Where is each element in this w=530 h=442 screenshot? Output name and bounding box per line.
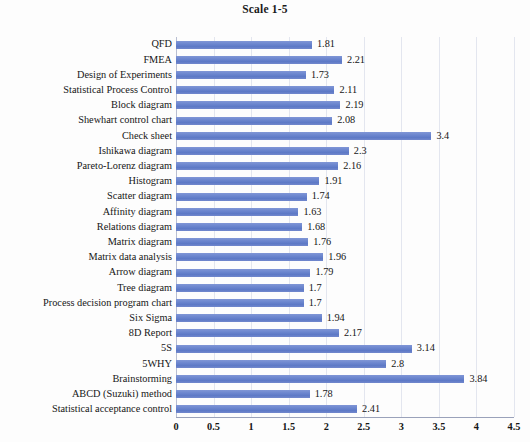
bar-row: Arrow diagram1.79 [0, 265, 530, 280]
bar [176, 269, 310, 277]
bar-value-label: 2.21 [347, 55, 365, 65]
x-tick-label: 0 [173, 421, 178, 432]
bar [176, 390, 310, 398]
bar-row: QFD1.81 [0, 37, 530, 52]
category-label: Six Sigma [0, 313, 172, 323]
bar-and-value: 2.41 [176, 402, 380, 417]
x-tick-label: 4.5 [508, 421, 521, 432]
bar-and-value: 2.8 [176, 356, 404, 371]
bar-row: Design of Experiments1.73 [0, 67, 530, 82]
bar-value-label: 1.68 [307, 222, 325, 232]
bar-and-value: 1.7 [176, 295, 322, 310]
bar-value-label: 2.16 [343, 161, 361, 171]
bar-value-label: 1.96 [328, 252, 346, 262]
bar-row: Shewhart control chart2.08 [0, 113, 530, 128]
category-label: 5WHY [0, 359, 172, 369]
bar-row: 5S3.14 [0, 341, 530, 356]
bar-and-value: 1.81 [176, 37, 335, 52]
bar-row: Ishikawa diagram2.3 [0, 143, 530, 158]
bar [176, 360, 386, 368]
bar-row: Statistical acceptance control2.41 [0, 402, 530, 417]
bar-value-label: 1.74 [312, 191, 330, 201]
bar-and-value: 2.17 [176, 326, 362, 341]
category-label: Relations diagram [0, 222, 172, 232]
bar-and-value: 2.08 [176, 113, 355, 128]
bar-value-label: 1.7 [309, 283, 322, 293]
x-tick-label: 0.5 [207, 421, 220, 432]
x-tick-label: 2.5 [357, 421, 370, 432]
bar-and-value: 1.79 [176, 265, 333, 280]
bar [176, 41, 312, 49]
bar-and-value: 1.68 [176, 219, 325, 234]
bar-rows: QFD1.81FMEA2.21Design of Experiments1.73… [0, 37, 530, 417]
category-label: 5S [0, 343, 172, 353]
bar-and-value: 1.91 [176, 174, 342, 189]
bar-row: Check sheet3.4 [0, 128, 530, 143]
bar [176, 345, 412, 353]
bar-value-label: 3.14 [417, 343, 435, 353]
category-label: Pareto-Lorenz diagram [0, 161, 172, 171]
bar-row: Pareto-Lorenz diagram2.16 [0, 159, 530, 174]
bar-value-label: 1.78 [315, 389, 333, 399]
bar-row: Brainstorming3.84 [0, 371, 530, 386]
category-label: Block diagram [0, 100, 172, 110]
bar-value-label: 3.84 [469, 374, 487, 384]
category-label: 8D Report [0, 328, 172, 338]
category-label: FMEA [0, 55, 172, 65]
bar [176, 177, 319, 185]
bar-and-value: 2.21 [176, 52, 365, 67]
bar [176, 86, 334, 94]
bar-row: Histogram1.91 [0, 174, 530, 189]
bar-row: Relations diagram1.68 [0, 219, 530, 234]
bar-row: Matrix diagram1.76 [0, 235, 530, 250]
bar [176, 299, 304, 307]
category-label: Shewhart control chart [0, 115, 172, 125]
x-tick-label: 1.5 [282, 421, 295, 432]
category-label: Check sheet [0, 131, 172, 141]
bar-value-label: 1.7 [309, 298, 322, 308]
bar-and-value: 2.16 [176, 159, 361, 174]
bar-value-label: 1.94 [327, 313, 345, 323]
bar-row: Six Sigma1.94 [0, 311, 530, 326]
bar-chart: Scale 1-5 QFD1.81FMEA2.21Design of Exper… [0, 0, 530, 442]
category-label: Statistical Process Control [0, 85, 172, 95]
bar-value-label: 3.4 [436, 131, 449, 141]
bar-and-value: 1.96 [176, 250, 346, 265]
bar [176, 223, 302, 231]
bar [176, 162, 338, 170]
bar-row: 8D Report2.17 [0, 326, 530, 341]
bar-and-value: 1.76 [176, 235, 331, 250]
bar-value-label: 1.73 [311, 70, 329, 80]
bar [176, 147, 349, 155]
bar [176, 56, 342, 64]
bar-and-value: 1.73 [176, 67, 329, 82]
bar-and-value: 3.14 [176, 341, 435, 356]
bar-value-label: 2.3 [354, 146, 367, 156]
category-label: Histogram [0, 176, 172, 186]
bar [176, 375, 464, 383]
category-label: ABCD (Suzuki) method [0, 389, 172, 399]
bar-value-label: 2.08 [337, 115, 355, 125]
bar-value-label: 1.81 [317, 39, 335, 49]
bar-value-label: 1.91 [324, 176, 342, 186]
bar-value-label: 2.19 [345, 100, 363, 110]
category-label: Affinity diagram [0, 207, 172, 217]
bar [176, 132, 431, 140]
bar [176, 405, 357, 413]
bar [176, 208, 298, 216]
category-label: Brainstorming [0, 374, 172, 384]
bar-row: ABCD (Suzuki) method1.78 [0, 387, 530, 402]
x-tick-label: 3.5 [432, 421, 445, 432]
x-axis-tick-labels: 00.511.522.533.544.5 [0, 421, 530, 441]
bar [176, 238, 308, 246]
bar-row: Process decision program chart1.7 [0, 295, 530, 310]
x-tick-label: 1 [249, 421, 254, 432]
category-label: Tree diagram [0, 283, 172, 293]
bar-value-label: 2.41 [362, 404, 380, 414]
bar [176, 117, 332, 125]
category-label: Process decision program chart [0, 298, 172, 308]
category-label: Statistical acceptance control [0, 404, 172, 414]
bar-row: 5WHY2.8 [0, 356, 530, 371]
category-label: Ishikawa diagram [0, 146, 172, 156]
bar-value-label: 2.8 [391, 359, 404, 369]
